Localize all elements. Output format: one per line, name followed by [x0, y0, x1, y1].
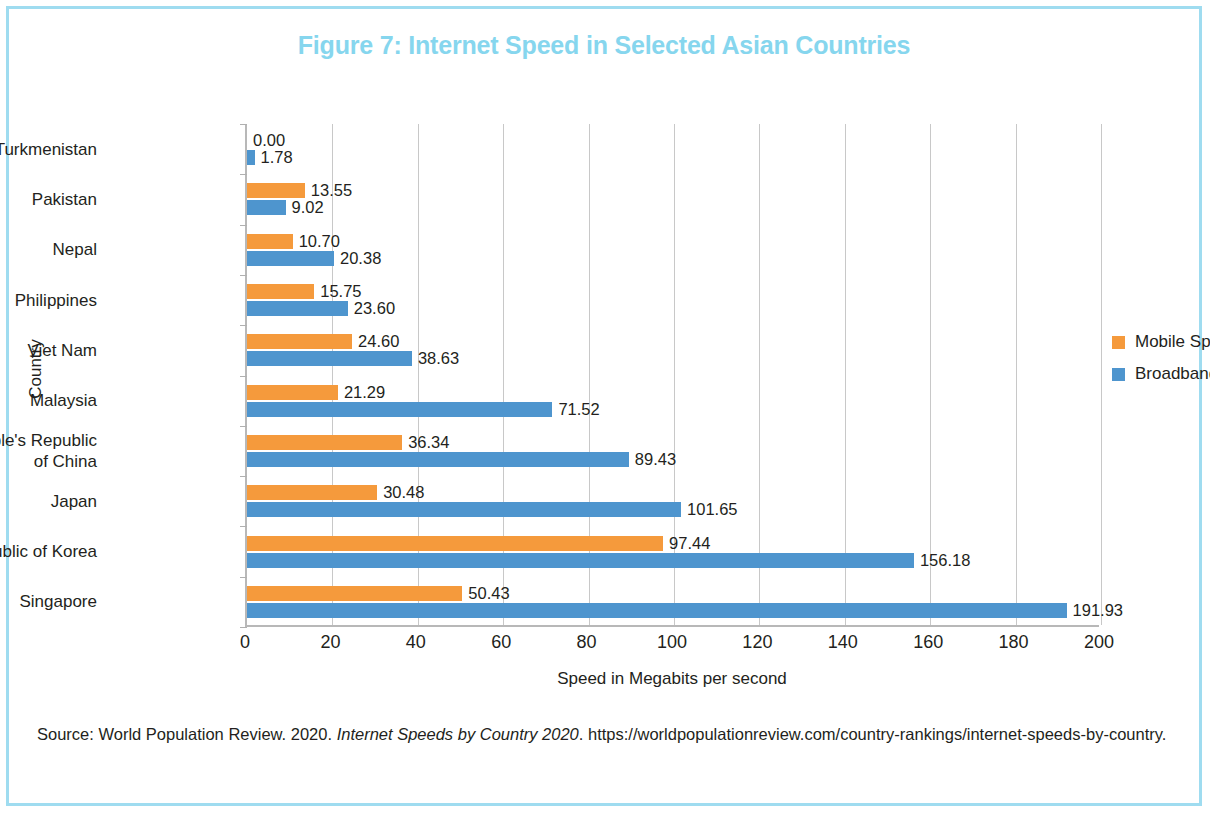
y-axis-tick: [240, 577, 247, 578]
bar-value-label: 71.52: [558, 402, 599, 417]
bar-broadband: [247, 301, 348, 316]
bar-mobile: [247, 284, 314, 299]
source-note: Source: World Population Review. 2020. I…: [37, 721, 1187, 747]
y-axis-category-label: Japan: [51, 491, 97, 512]
x-axis-tick-label: 140: [828, 632, 858, 653]
x-axis-tick-label: 120: [742, 632, 772, 653]
bar-broadband: [247, 452, 629, 467]
legend-item-mobile-speed: Mobile Speed: [1112, 332, 1210, 352]
bar-group: 50.43191.93: [247, 577, 1099, 627]
bar-group: 13.559.02: [247, 174, 1099, 224]
bar-value-label: 1.78: [261, 150, 293, 165]
x-axis-tick-label: 80: [577, 632, 597, 653]
x-axis-tick-label: 160: [913, 632, 943, 653]
gridline: [1101, 124, 1102, 625]
bar-value-label: 38.63: [418, 351, 459, 366]
bar-value-label: 191.93: [1073, 603, 1123, 618]
bar-broadband: [247, 603, 1067, 618]
bar-value-label: 30.48: [383, 485, 424, 500]
legend-swatch-broadband-icon: [1112, 368, 1125, 381]
bar-broadband: [247, 251, 334, 266]
bar-value-label: 23.60: [354, 301, 395, 316]
legend-item-broadband-speed: Broadband Speed: [1112, 364, 1210, 384]
bar-value-label: 89.43: [635, 452, 676, 467]
bar-group: 21.2971.52: [247, 376, 1099, 426]
y-axis-category-label: Turkmenistan: [0, 139, 97, 160]
bar-mobile: [247, 536, 663, 551]
bar-group: 97.44156.18: [247, 526, 1099, 576]
legend-swatch-mobile-icon: [1112, 336, 1125, 349]
y-axis-tick: [240, 275, 247, 276]
chart-legend: Mobile Speed Broadband Speed: [1112, 332, 1210, 396]
bar-group: 30.48101.65: [247, 476, 1099, 526]
bar-group: 10.7020.38: [247, 225, 1099, 275]
x-axis-tick-label: 0: [240, 632, 250, 653]
bar-value-label: 9.02: [292, 200, 324, 215]
x-axis-tick-label: 180: [999, 632, 1029, 653]
bar-broadband: [247, 553, 914, 568]
x-axis-tick-label: 40: [406, 632, 426, 653]
x-axis-tick-labels: 020406080100120140160180200: [245, 632, 1099, 658]
y-axis-tick: [240, 627, 247, 628]
x-axis-tick-label: 20: [320, 632, 340, 653]
source-suffix: . https://worldpopulationreview.com/coun…: [579, 725, 1167, 743]
y-axis-category-label: Malaysia: [30, 390, 97, 411]
bar-value-label: 50.43: [468, 586, 509, 601]
y-axis-tick: [240, 426, 247, 427]
bar-value-label: 97.44: [669, 536, 710, 551]
y-axis-tick: [240, 526, 247, 527]
y-axis-category-label: Singapore: [19, 591, 97, 612]
bar-value-label: 24.60: [358, 334, 399, 349]
bar-broadband: [247, 502, 681, 517]
plot-area: 0.001.7813.559.0210.7020.3815.7523.6024.…: [245, 124, 1099, 627]
bar-group: 15.7523.60: [247, 275, 1099, 325]
bar-mobile: [247, 334, 352, 349]
y-axis-category-label: Pakistan: [32, 189, 97, 210]
bar-value-label: 15.75: [320, 284, 361, 299]
bar-mobile: [247, 234, 293, 249]
bar-value-label: 101.65: [687, 502, 737, 517]
y-axis-tick: [240, 174, 247, 175]
figure-frame: Figure 7: Internet Speed in Selected Asi…: [6, 6, 1202, 806]
bar-value-label: 156.18: [920, 553, 970, 568]
bar-value-label: 21.29: [344, 385, 385, 400]
y-axis-category-label: Republic of Korea: [0, 541, 97, 562]
bar-value-label: 20.38: [340, 251, 381, 266]
y-axis-tick: [240, 376, 247, 377]
x-axis-tick-label: 200: [1084, 632, 1114, 653]
bar-broadband: [247, 351, 412, 366]
y-axis-category-label: People's Republic of China: [0, 430, 97, 472]
bar-broadband: [247, 402, 552, 417]
bar-value-label: 0.00: [253, 133, 285, 148]
bar-mobile: [247, 385, 338, 400]
bar-chart: Country 0.001.7813.559.0210.7020.3815.75…: [9, 104, 1199, 704]
source-prefix: Source: World Population Review. 2020.: [37, 725, 337, 743]
source-title: Internet Speeds by Country 2020: [337, 725, 579, 743]
x-axis-tick-label: 60: [491, 632, 511, 653]
figure-title: Figure 7: Internet Speed in Selected Asi…: [9, 31, 1199, 60]
bar-mobile: [247, 586, 462, 601]
bar-broadband: [247, 200, 286, 215]
y-axis-tick: [240, 225, 247, 226]
bar-value-label: 10.70: [299, 234, 340, 249]
bar-group: 0.001.78: [247, 124, 1099, 174]
bar-value-label: 13.55: [311, 183, 352, 198]
y-axis-tick: [240, 325, 247, 326]
bar-group: 36.3489.43: [247, 426, 1099, 476]
y-axis-category-label: Philippines: [15, 290, 97, 311]
x-axis-title: Speed in Megabits per second: [245, 669, 1099, 689]
y-axis-tick: [240, 476, 247, 477]
x-axis-tick-label: 100: [657, 632, 687, 653]
y-axis-category-label: Viet Nam: [27, 340, 97, 361]
legend-label-mobile-speed: Mobile Speed: [1135, 332, 1210, 352]
bar-value-label: 36.34: [408, 435, 449, 450]
bar-group: 24.6038.63: [247, 325, 1099, 375]
bar-broadband: [247, 150, 255, 165]
bar-mobile: [247, 485, 377, 500]
bar-mobile: [247, 435, 402, 450]
bar-mobile: [247, 183, 305, 198]
legend-label-broadband-speed: Broadband Speed: [1135, 364, 1210, 384]
y-axis-tick: [240, 124, 247, 125]
y-axis-category-label: Nepal: [53, 239, 97, 260]
